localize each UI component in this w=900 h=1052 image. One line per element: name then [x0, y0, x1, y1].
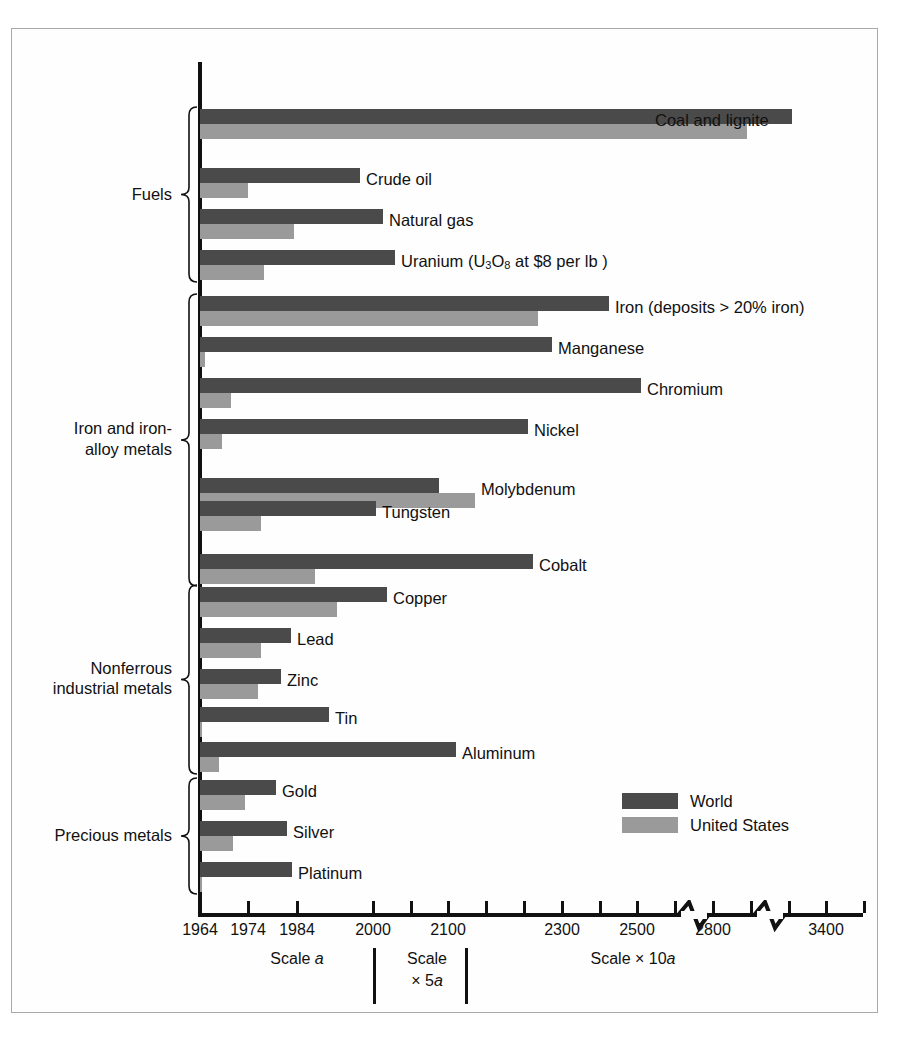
bar-label: Chromium: [647, 380, 723, 399]
bar-world: [200, 742, 456, 757]
bar-united-states: [200, 311, 538, 326]
scale-divider-left: [373, 948, 376, 1004]
group-label-3: Nonferrous industrial metals: [53, 658, 172, 699]
legend-item-world: World: [622, 789, 789, 813]
bar-label: Lead: [297, 630, 334, 649]
x-axis-tick: [561, 901, 564, 913]
x-axis-tick: [247, 901, 250, 913]
bar-world: [200, 628, 291, 643]
bar-united-states: [200, 684, 258, 699]
bar-world: [200, 296, 609, 311]
bar-label: Cobalt: [539, 556, 587, 575]
bar-label: Zinc: [287, 671, 318, 690]
bar-united-states: [200, 265, 264, 280]
bar-world: [200, 337, 552, 352]
legend-label-world: World: [690, 792, 733, 811]
bar-united-states: [200, 836, 233, 851]
scale-caption-10a: Scale × 10a: [513, 948, 753, 970]
bar-united-states: [200, 224, 294, 239]
bar-world: [200, 554, 533, 569]
x-axis-tick: [447, 901, 450, 913]
bar-label: Platinum: [298, 864, 362, 883]
bar-world: [200, 209, 383, 224]
legend-swatch-united-states-icon: [622, 817, 678, 833]
x-axis-tick: [712, 901, 715, 913]
x-axis-minor-tick: [523, 901, 526, 913]
bar-label: Nickel: [534, 421, 579, 440]
group-label-1: Fuels: [132, 184, 172, 205]
group-brace-3: [180, 584, 198, 775]
x-axis-minor-tick: [599, 901, 602, 913]
bar-label: Molybdenum: [481, 480, 575, 499]
bar-united-states: [200, 393, 231, 408]
bar-world: [200, 862, 292, 877]
x-axis-tick-label: 1964: [182, 921, 218, 939]
bar-united-states: [200, 757, 219, 772]
bar-world: [200, 501, 376, 516]
bar-label: Copper: [393, 589, 447, 608]
scale-caption-5a: Scale× 5a: [390, 948, 464, 991]
x-axis-tick-label: 2000: [355, 921, 391, 939]
bar-chart: 196419741984200021002300250028003400Coal…: [0, 0, 900, 1052]
x-axis-tick: [296, 901, 299, 913]
bar-world: [200, 419, 528, 434]
group-brace-2: [180, 293, 198, 587]
bar-label: Manganese: [558, 339, 644, 358]
x-axis-tick-label: 2500: [619, 921, 655, 939]
x-axis-tick: [199, 901, 202, 913]
bar-united-states: [200, 352, 205, 367]
group-label-2: Iron and iron- alloy metals: [74, 418, 172, 459]
bar-world: [200, 780, 276, 795]
bar-world: [200, 587, 387, 602]
bar-label: Tungsten: [382, 503, 450, 522]
bar-world: [200, 821, 287, 836]
bar-world: [200, 250, 395, 265]
bar-united-states: [200, 795, 245, 810]
x-axis-tick-label: 1984: [279, 921, 315, 939]
bar-united-states: [200, 434, 222, 449]
bar-label: Uranium (U3O8 at $8 per lb ): [401, 252, 608, 271]
scale-divider-right: [465, 948, 468, 1004]
bar-label: Coal and lignite: [655, 111, 769, 130]
bar-label: Silver: [293, 823, 334, 842]
x-axis-tick-label: 2300: [544, 921, 580, 939]
bar-united-states: [200, 569, 315, 584]
figure-page: 196419741984200021002300250028003400Coal…: [0, 0, 900, 1052]
x-axis-tick: [372, 901, 375, 913]
group-label-4: Precious metals: [55, 825, 172, 846]
bar-label: Iron (deposits > 20% iron): [615, 298, 804, 317]
x-axis-minor-tick: [485, 901, 488, 913]
legend-swatch-world-icon: [622, 793, 678, 809]
legend-label-united-states: United States: [690, 816, 789, 835]
x-axis-tick: [825, 901, 828, 913]
legend: World United States: [622, 789, 789, 837]
x-axis-tick-label: 3400: [808, 921, 844, 939]
x-axis-tick-label: 2100: [430, 921, 466, 939]
bar-united-states: [200, 877, 202, 892]
x-axis-minor-tick: [788, 901, 791, 913]
bar-world: [200, 478, 439, 493]
group-brace-4: [180, 777, 198, 895]
x-axis-tick-label: 1974: [230, 921, 266, 939]
group-brace-1: [180, 106, 198, 283]
x-axis-tick: [636, 901, 639, 913]
legend-item-united-states: United States: [622, 813, 789, 837]
x-axis-break-mask: [757, 911, 783, 919]
bar-world: [200, 168, 360, 183]
bar-world: [200, 669, 281, 684]
bar-label: Crude oil: [366, 170, 432, 189]
bar-united-states: [200, 643, 261, 658]
scale-caption-a: Scale a: [212, 948, 382, 970]
bar-label: Aluminum: [462, 744, 535, 763]
bar-world: [200, 707, 329, 722]
bar-world: [200, 378, 641, 393]
bar-label: Natural gas: [389, 211, 473, 230]
bar-label: Tin: [335, 709, 357, 728]
bar-united-states: [200, 183, 248, 198]
bar-united-states: [200, 602, 337, 617]
x-axis-minor-tick: [863, 901, 866, 913]
bar-united-states: [200, 516, 261, 531]
x-axis-break-mask: [681, 911, 707, 919]
bar-label: Gold: [282, 782, 317, 801]
bar-united-states: [200, 722, 202, 737]
